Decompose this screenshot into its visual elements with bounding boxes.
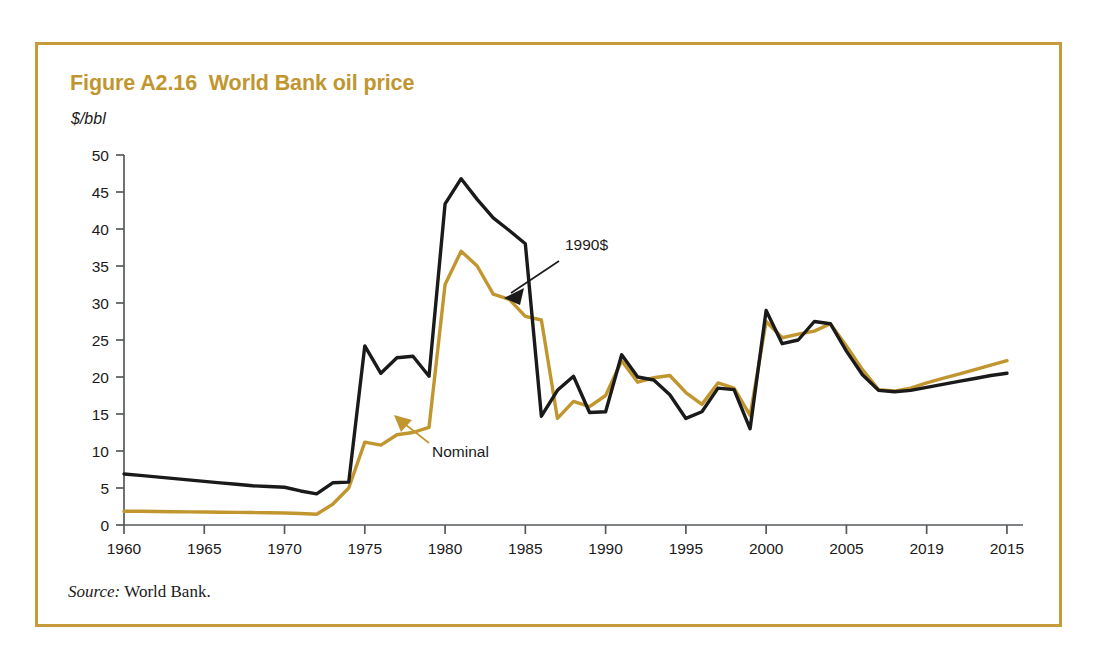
figure-frame: Figure A2.16 World Bank oil price $/bbl … <box>35 42 1062 627</box>
y-axis-tick-label: 45 <box>92 184 109 201</box>
y-axis-tick-label: 10 <box>92 443 110 460</box>
x-axis-ticks: 1960196519701975198019851990199520002005… <box>107 525 1024 557</box>
x-axis-tick-label: 1995 <box>669 540 703 557</box>
x-axis-tick-label: 2019 <box>909 540 943 557</box>
source-note-label: Source: <box>68 582 120 601</box>
y-axis-tick-label: 40 <box>92 221 110 238</box>
y-axis-tick-label: 15 <box>92 406 109 423</box>
oil-price-line-chart: 05101520253035404550 1960196519701975198… <box>38 45 1065 630</box>
annotation-nominal: Nominal <box>394 415 489 460</box>
y-axis-tick-label: 25 <box>92 332 109 349</box>
chart-series-layer <box>124 179 1007 515</box>
annotation-1990-dollars-label: 1990$ <box>565 236 608 253</box>
x-axis-tick-label: 1975 <box>348 540 382 557</box>
y-axis-ticks: 05101520253035404550 <box>92 147 124 534</box>
source-note-text: World Bank. <box>120 582 210 601</box>
annotation-nominal-arrow-head <box>394 415 412 432</box>
x-axis-tick-label: 2005 <box>829 540 863 557</box>
y-axis-tick-label: 30 <box>92 295 110 312</box>
x-axis-tick-label: 1980 <box>428 540 463 557</box>
annotation-1990-dollars: 1990$ <box>504 236 608 305</box>
x-axis-tick-label: 2015 <box>990 540 1024 557</box>
x-axis-tick-label: 1965 <box>187 540 221 557</box>
series-line-real-1990-dollars <box>124 179 1007 494</box>
annotation-nominal-label: Nominal <box>432 443 489 460</box>
y-axis-tick-label: 20 <box>92 369 110 386</box>
x-axis-tick-label: 1990 <box>588 540 623 557</box>
x-axis-tick-label: 1960 <box>107 540 142 557</box>
y-axis-tick-label: 0 <box>100 517 109 534</box>
x-axis-tick-label: 1985 <box>508 540 542 557</box>
annotation-1990-dollars-arrow-line <box>511 261 559 293</box>
chart-axes <box>124 155 1023 525</box>
x-axis-tick-label: 1970 <box>267 540 302 557</box>
y-axis-tick-label: 35 <box>92 258 109 275</box>
source-note: Source: World Bank. <box>68 582 211 602</box>
y-axis-tick-label: 5 <box>100 480 109 497</box>
y-axis-tick-label: 50 <box>92 147 110 164</box>
x-axis-tick-label: 2000 <box>749 540 784 557</box>
